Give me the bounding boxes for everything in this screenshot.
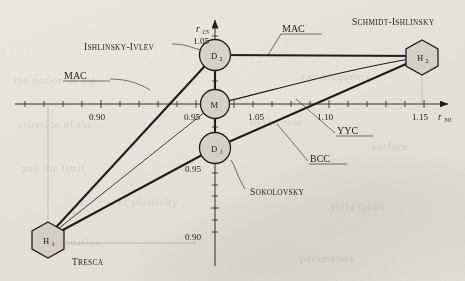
node-m-label: M [211,100,219,110]
curve-sokolovsky [48,148,215,238]
callout-mac-left: MAC [64,70,87,81]
node-d1[interactable]: D 1 [200,133,231,164]
axis-lines [15,20,448,266]
y-tick-090: 0.90 [185,232,201,242]
callout-sokolovsky: SOKOLOVSKY [250,187,305,197]
node-m[interactable]: M [201,90,230,119]
node-h2-subscript: 2 [426,57,429,64]
curve-bcc [215,57,422,148]
node-h2-label: H [417,53,423,63]
x-axis-name-subscript: 30 [443,116,451,123]
node-h1[interactable]: H 1 [32,222,64,258]
node-d1-subscript: 1 [220,148,223,155]
callout-mac-top: MAC [282,23,305,34]
curve-yyc [215,57,422,104]
callout-tresca: TRESCA [72,257,104,267]
y-tick-095: 0.95 [185,164,201,174]
node-h1-label: H [43,236,49,246]
leader-mac-left [110,79,150,90]
figure-container: the notion of thea consequencecriterion … [0,0,465,281]
leader-sokolovsky [231,160,245,189]
x-axis-name-letter: r [438,112,442,122]
curve-mac-top [215,55,422,56]
node-h2[interactable]: H 2 [406,40,438,75]
x-tick-115: 1.15 [412,112,428,122]
x-tick-105: 1.05 [248,112,264,122]
node-h1-subscript: 1 [52,240,55,247]
node-d2-subscript: 2 [220,55,223,62]
x-axis-name: r 30 [438,112,451,123]
leader-bcc [277,124,308,161]
callout-bcc: BCC [310,153,330,164]
node-d1-label: D [211,144,217,154]
callout-ishlinsky-ivlev: ISHLINSKY-IVLEV [84,42,155,52]
x-tick-095: 0.95 [184,112,200,122]
y-tick-105: 1.05 [193,36,209,46]
yield-criterion-diagram: D 2 M D 1 H 1 H 2 0.90 0 [0,0,465,281]
y-axis-name-letter: r [196,24,200,34]
callout-yyc: YYC [337,125,358,136]
x-tick-090: 0.90 [89,112,105,122]
x-tick-110: 1.10 [317,112,333,122]
y-axis-name-subscript: 15 [202,28,209,35]
leader-mac-top [268,34,281,55]
callout-schmidt-ishlinsky: SCHMIDT-ISHLINSKY [352,17,435,27]
node-d2-label: D [211,51,217,61]
y-axis-name: r 15 [196,24,209,35]
